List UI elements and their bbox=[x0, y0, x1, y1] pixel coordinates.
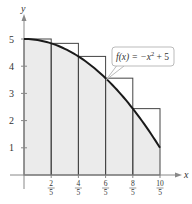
x-ticks: 25456585105 bbox=[48, 175, 164, 197]
x-axis-label: x bbox=[183, 169, 189, 180]
y-tick-label: 2 bbox=[9, 115, 14, 126]
callout-pointer bbox=[106, 64, 124, 80]
upper-sum-chart: x y 12345 25456585105 f(x) = −x2 + 5 bbox=[0, 0, 192, 204]
x-tick-numerator: 2 bbox=[49, 179, 53, 188]
x-tick-numerator: 10 bbox=[156, 179, 164, 188]
y-tick-label: 4 bbox=[9, 61, 14, 72]
x-tick-numerator: 4 bbox=[77, 179, 81, 188]
x-tick-denominator: 5 bbox=[77, 188, 81, 197]
x-tick-denominator: 5 bbox=[104, 188, 108, 197]
x-tick-numerator: 8 bbox=[131, 179, 135, 188]
y-tick-label: 3 bbox=[9, 88, 14, 99]
x-axis-arrow-icon bbox=[175, 173, 182, 178]
function-label-callout: f(x) = −x2 + 5 bbox=[106, 47, 174, 80]
function-label: f(x) = −x2 + 5 bbox=[116, 50, 169, 63]
y-tick-label: 1 bbox=[9, 142, 14, 153]
y-axis-label: y bbox=[20, 3, 26, 14]
x-tick-numerator: 6 bbox=[104, 179, 108, 188]
x-tick-denominator: 5 bbox=[131, 188, 135, 197]
y-axis-arrow-icon bbox=[22, 14, 27, 21]
x-tick-denominator: 5 bbox=[158, 188, 162, 197]
x-tick-denominator: 5 bbox=[49, 188, 53, 197]
y-tick-label: 5 bbox=[9, 34, 14, 45]
